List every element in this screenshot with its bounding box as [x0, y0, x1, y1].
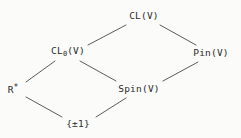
- node-plus-minus-one-label: {±1}: [66, 118, 90, 129]
- node-r-star: R*: [6, 83, 21, 96]
- lattice-diagram: CL(V) CL0(V) Pin(V) R* Spin(V) {±1}: [0, 0, 241, 138]
- edge-cl0-to-spin: [80, 61, 116, 81]
- node-cl0-argument: (V): [67, 45, 85, 56]
- node-cl: CL(V): [127, 10, 161, 22]
- node-plus-minus-one: {±1}: [64, 118, 92, 130]
- edge-layer: [0, 0, 241, 138]
- node-pin: Pin(V): [191, 47, 231, 59]
- asterisk-icon: *: [14, 83, 19, 92]
- edge-rstar-to-pm1: [26, 97, 62, 117]
- edge-cl-to-pin: [160, 25, 196, 45]
- node-cl-label: CL(V): [129, 10, 159, 21]
- node-spin-label: Spin(V): [118, 83, 159, 94]
- edge-spin-to-pin: [163, 62, 198, 81]
- edge-rstar-to-cl0: [26, 61, 55, 82]
- node-spin: Spin(V): [116, 83, 161, 95]
- edge-cl0-to-cl: [88, 25, 126, 45]
- node-cl0-base: CL: [51, 45, 63, 56]
- node-pin-label: Pin(V): [193, 47, 229, 58]
- edge-pm1-to-spin: [96, 98, 126, 117]
- node-cl0: CL0(V): [49, 45, 87, 59]
